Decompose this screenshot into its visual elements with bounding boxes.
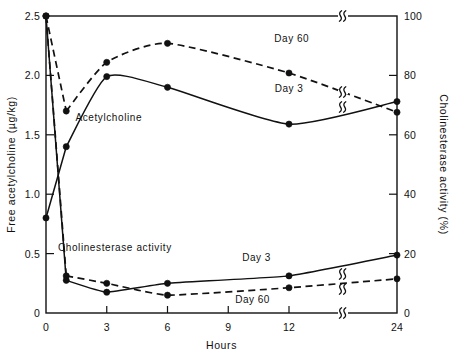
y-right-tick-label-60: 60 (404, 129, 416, 141)
y-right-tick-label-20: 20 (404, 248, 416, 260)
data-point-acetylcholine-day-3-6h (164, 84, 170, 90)
x-tick-label-12: 12 (283, 321, 295, 333)
y-left-tick-label-0.5: 0.5 (25, 248, 40, 260)
data-point-acetylcholine-day-3-12h (286, 121, 292, 127)
axis-break-symbol (338, 284, 348, 294)
data-point-cholinesterase-day-60-24h (394, 276, 400, 282)
series-label-acetylcholine-day-3: Day 3 (275, 83, 304, 94)
x-tick-label-24: 24 (391, 321, 403, 333)
y-right-tick-label-40: 40 (404, 188, 416, 200)
plot-frame (46, 16, 397, 313)
x-tick-label-3: 3 (104, 321, 110, 333)
data-point-cholinesterase-day-3-6h (164, 280, 170, 286)
data-point-cholinesterase-day-3-3h (104, 289, 110, 295)
y-left-tick-label-1.0: 1.0 (25, 188, 40, 200)
axis-break-symbol (338, 269, 348, 279)
data-point-acetylcholine-day-60-12h (286, 70, 292, 76)
axis-break-symbol (338, 102, 348, 112)
data-point-acetylcholine-day-60-6h (164, 40, 170, 46)
data-point-cholinesterase-day-60-3h (104, 280, 110, 286)
axis-break-symbol (338, 87, 348, 97)
data-point-cholinesterase-day-3-24h (394, 252, 400, 258)
data-point-acetylcholine-day-60-3h (104, 59, 110, 65)
series-line-cholinesterase-day-60 (66, 276, 397, 295)
axis-break-symbol (338, 11, 348, 21)
data-point-acetylcholine-day-60-24h (394, 109, 400, 115)
axis-break-symbol (338, 308, 348, 318)
y-left-tick-label-2.0: 2.0 (25, 69, 40, 81)
data-point-cholinesterase-day-60-0h (43, 13, 49, 19)
group-annotation-acetylcholine: Acetylcholine (75, 112, 142, 123)
series-label-cholinesterase-day-60: Day 60 (235, 294, 270, 305)
y-left-tick-label-1.5: 1.5 (25, 129, 40, 141)
series-label-cholinesterase-day-3: Day 3 (242, 252, 271, 263)
y-right-tick-label-0: 0 (404, 307, 410, 319)
data-point-cholinesterase-day-3-12h (286, 273, 292, 279)
data-point-acetylcholine-day-3-0h (43, 215, 49, 221)
data-point-cholinesterase-day-60-6h (164, 292, 170, 298)
dual-axis-line-chart: 03691224Hours00.51.01.52.02.5Free acetyl… (0, 0, 454, 356)
x-tick-label-6: 6 (164, 321, 170, 333)
y-left-axis-title: Free acetylcholine (µg/kg) (5, 96, 17, 233)
data-point-cholinesterase-day-60-1h (63, 273, 69, 279)
y-left-tick-label-0: 0 (34, 307, 40, 319)
group-annotation-cholinesterase-activity: Cholinesterase activity (58, 242, 172, 253)
data-point-acetylcholine-day-3-24h (394, 98, 400, 104)
data-point-acetylcholine-day-3-3h (104, 73, 110, 79)
x-tick-label-9: 9 (225, 321, 231, 333)
x-axis-title: Hours (206, 339, 237, 351)
series-line-acetylcholine-day-60 (66, 43, 397, 112)
chart-figure: 03691224Hours00.51.01.52.02.5Free acetyl… (0, 0, 454, 356)
data-point-cholinesterase-day-60-12h (286, 285, 292, 291)
y-right-axis-title: Cholinesterase activity (%) (438, 94, 450, 235)
y-right-tick-label-100: 100 (404, 10, 422, 22)
x-tick-label-0: 0 (43, 321, 49, 333)
data-point-acetylcholine-day-3-1h (63, 144, 69, 150)
data-point-acetylcholine-day-60-1h (63, 108, 69, 114)
y-left-tick-label-2.5: 2.5 (25, 10, 40, 22)
y-right-tick-label-80: 80 (404, 69, 416, 81)
series-label-acetylcholine-day-60: Day 60 (274, 33, 309, 44)
